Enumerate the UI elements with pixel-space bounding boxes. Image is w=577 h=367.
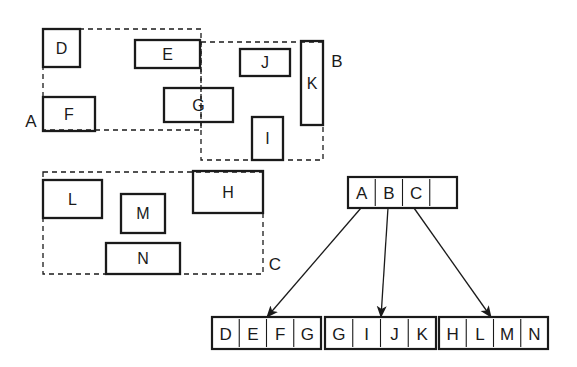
leaf-nodes: DEFGGIJKHLMN — [212, 317, 548, 349]
node-entry: F — [275, 325, 285, 344]
node-entry: K — [416, 325, 428, 344]
group-label: B — [331, 52, 342, 71]
root-node-box: ABC — [348, 177, 457, 208]
node-entry: C — [410, 184, 422, 203]
rect-label: G — [192, 97, 204, 114]
rect-e: E — [135, 40, 200, 68]
rect-label: K — [307, 75, 318, 92]
r-tree-diagram: ABC DEFGJKILMNH ABC DEFGGIJKHLMN — [0, 0, 577, 367]
node-entry: A — [356, 184, 368, 203]
rect-label: J — [261, 54, 269, 71]
rect-l: L — [43, 180, 102, 218]
rect-h: H — [193, 171, 263, 213]
node-entry: D — [219, 325, 231, 344]
leaf-A-node: DEFG — [212, 317, 321, 349]
rect-n: N — [106, 243, 180, 274]
rect-d: D — [43, 29, 80, 67]
rect-label: L — [68, 191, 77, 208]
node-entry: G — [332, 325, 345, 344]
tree-arrows — [267, 208, 491, 317]
arrow-c-to-leaf-C — [414, 208, 491, 317]
node-entry: J — [390, 325, 399, 344]
rect-f: F — [43, 97, 95, 131]
data-rectangles: DEFGJKILMNH — [43, 29, 323, 274]
node-entry: B — [383, 184, 394, 203]
node-entry: H — [446, 325, 458, 344]
rect-label: H — [222, 184, 234, 201]
root-node: ABC — [348, 177, 457, 208]
rect-label: M — [136, 205, 149, 222]
node-entry: L — [475, 325, 484, 344]
group-label: A — [25, 112, 37, 131]
diagram-svg: ABC DEFGJKILMNH ABC DEFGGIJKHLMN — [0, 0, 577, 367]
node-entry: E — [247, 325, 258, 344]
node-entry: I — [364, 325, 369, 344]
rect-label: I — [265, 130, 269, 147]
rect-m: M — [121, 194, 165, 233]
node-entry: G — [301, 325, 314, 344]
node-entry: N — [528, 325, 540, 344]
rect-k: K — [301, 41, 323, 125]
rect-g: G — [164, 88, 233, 122]
rect-label: F — [64, 106, 74, 123]
rect-label: N — [137, 250, 149, 267]
group-label: C — [269, 255, 281, 274]
rect-i: I — [252, 117, 283, 160]
node-entry: M — [500, 325, 514, 344]
rect-label: E — [162, 46, 173, 63]
leaf-B-node: GIJK — [325, 317, 436, 349]
leaf-C-node: HLMN — [439, 317, 548, 349]
arrow-b-to-leaf-B — [381, 208, 388, 317]
rect-label: D — [56, 40, 68, 57]
rect-j: J — [240, 49, 290, 76]
